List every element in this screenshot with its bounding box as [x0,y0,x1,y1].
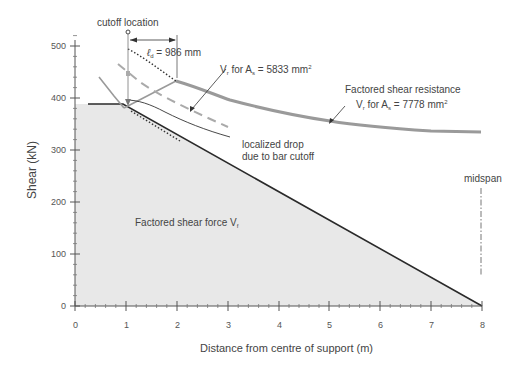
cutoff-location-label: cutoff location [97,17,159,29]
x-tick-8: 8 [480,320,485,330]
x-tick-1: 1 [124,320,129,330]
y-tick-300: 300 [51,145,66,155]
localized-drop-label-2: due to bar cutoff [242,151,314,163]
midspan-label: midspan [464,173,502,185]
shear-force-sub: f [237,223,239,229]
resistance-development-line [124,81,176,108]
vr-5833-for: for A [229,64,252,75]
cutoff-marker [126,30,130,34]
y-tick-0: 0 [61,301,66,311]
x-tick-4: 4 [277,320,282,330]
vr-5833-sup: 2 [308,64,311,70]
cutoff-square [126,71,130,76]
vr-7778-label: Vr for As = 7778 mm2 [356,96,447,114]
ld-label: ℓd = 986 mm [147,47,201,62]
x-axis-title: Distance from centre of support (m) [200,342,373,354]
y-tick-200: 200 [51,197,66,207]
resistance-title-label: Factored shear resistance [345,84,461,96]
x-tick-2: 2 [175,320,180,330]
y-axis-title: Shear (kN) [25,135,39,205]
x-tick-0: 0 [73,320,78,330]
x-tick-6: 6 [378,320,383,330]
y-tick-500: 500 [51,41,66,51]
shear-force-label: Factored shear force Vf [135,217,238,232]
y-tick-100: 100 [51,249,66,259]
shear-force-area [75,104,482,306]
vr-5833-label: Vr for As = 5833 mm2 [220,61,311,79]
ld-arrow-left [130,38,137,43]
vr-7778-value: = 7778 mm [391,99,444,110]
x-tick-3: 3 [226,320,231,330]
x-tick-5: 5 [327,320,332,330]
chart-canvas [0,0,524,371]
vr-5833-v: V [220,64,227,75]
ld-value: = 986 mm [154,47,202,58]
vr-7778-v: V [356,99,363,110]
y-tick-400: 400 [51,93,66,103]
shear-force-text: Factored shear force V [135,217,237,228]
vr-5833-value: = 5833 mm [255,64,308,75]
vr-7778-sup: 2 [444,99,447,105]
localized-drop-label-1: localized drop [242,139,304,151]
ld-arrow-right [169,38,176,43]
x-tick-7: 7 [429,320,434,330]
vr-7778-for: for A [365,99,388,110]
